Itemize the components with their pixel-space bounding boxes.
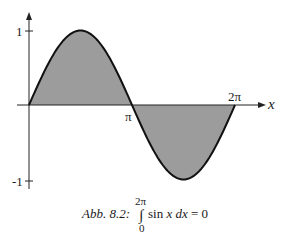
x-axis-label: x — [267, 96, 275, 112]
y-tick-label-minus-1: -1 — [12, 174, 23, 189]
y-tick-label-1: 1 — [16, 24, 23, 39]
integral-lower-limit: 0 — [139, 222, 145, 234]
x-axis-arrow-icon — [258, 102, 266, 108]
integrand: sin x dx = 0 — [148, 206, 208, 221]
positive-area-fill — [29, 31, 132, 106]
y-axis-arrow-icon — [26, 12, 32, 20]
sine-integral-figure: 1 -1 π 2π x Abb. 8.2: 2π ∫ 0 sin x dx = … — [0, 0, 287, 240]
x-tick-label-pi: π — [125, 109, 132, 124]
x-tick-label-2pi: 2π — [228, 89, 242, 104]
negative-area-fill — [132, 105, 235, 180]
caption-label: Abb. 8.2: — [81, 206, 130, 221]
integral-upper-limit: 2π — [135, 195, 147, 207]
